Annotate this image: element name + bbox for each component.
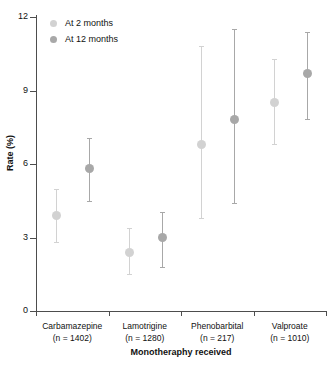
error-bar-cap	[232, 29, 237, 30]
data-point	[230, 115, 239, 124]
data-point	[85, 164, 94, 173]
error-bar-cap	[272, 59, 277, 60]
legend-label-series-1: At 12 months	[65, 34, 118, 44]
chart-container: Rate (%) 036912 Carbamazepine(n = 1402)L…	[0, 0, 336, 366]
error-bar-cap	[54, 189, 59, 190]
error-bar-cap	[87, 201, 92, 202]
error-bar-cap	[127, 274, 132, 275]
x-axis-category-name: Valproate	[247, 320, 333, 332]
x-tick-mark	[326, 311, 327, 316]
error-bar-cap	[160, 212, 165, 213]
legend: At 2 months At 12 months	[50, 16, 118, 48]
data-point	[303, 69, 312, 78]
error-bar-cap	[272, 144, 277, 145]
y-tick-label: 12	[2, 12, 28, 21]
y-tick-mark	[30, 164, 36, 165]
y-tick-mark	[30, 238, 36, 239]
error-bar-cap	[87, 138, 92, 139]
y-tick-label: 9	[2, 86, 28, 95]
y-tick-mark	[30, 91, 36, 92]
error-bar-cap	[54, 242, 59, 243]
data-point	[197, 140, 206, 149]
legend-swatch-icon-series-1	[50, 36, 57, 43]
x-tick-mark	[109, 311, 110, 316]
y-tick-label: 6	[2, 159, 28, 168]
legend-item-at-12-months: At 12 months	[50, 32, 118, 46]
error-bar	[201, 46, 202, 218]
error-bar-cap	[232, 203, 237, 204]
x-axis-group-label: Valproate(n = 1010)	[247, 320, 333, 344]
data-point	[270, 98, 279, 107]
error-bar-cap	[199, 218, 204, 219]
y-tick-mark	[30, 17, 36, 18]
error-bar-cap	[127, 228, 132, 229]
error-bar-cap	[160, 267, 165, 268]
legend-swatch-icon-series-0	[50, 20, 57, 27]
data-point	[52, 211, 61, 220]
data-point	[158, 233, 167, 242]
y-tick-label: 3	[2, 233, 28, 242]
legend-item-at-2-months: At 2 months	[50, 16, 118, 30]
error-bar-cap	[305, 119, 310, 120]
x-tick-mark	[36, 311, 37, 316]
y-tick-label: 0	[2, 306, 28, 315]
x-tick-mark	[254, 311, 255, 316]
error-bar-cap	[199, 46, 204, 47]
y-axis-title: Rate (%)	[5, 113, 15, 193]
x-tick-mark	[181, 311, 182, 316]
legend-label-series-0: At 2 months	[65, 18, 113, 28]
error-bar-cap	[305, 32, 310, 33]
data-point	[125, 248, 134, 257]
y-axis-line	[36, 15, 37, 313]
x-axis-category-count: (n = 1010)	[247, 332, 333, 344]
x-axis-title: Monotheraphy received	[36, 347, 326, 357]
